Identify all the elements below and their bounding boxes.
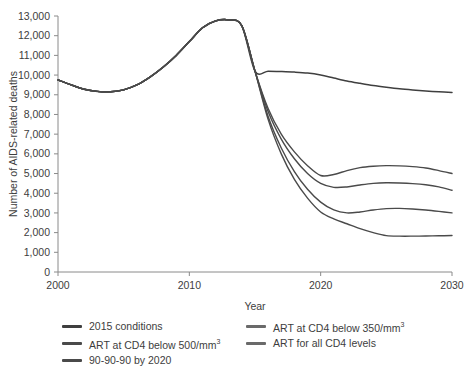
legend-swatch-icon bbox=[246, 325, 266, 327]
svg-text:2,000: 2,000 bbox=[24, 226, 50, 238]
legend-item-label: ART for all CD4 levels bbox=[273, 338, 376, 349]
legend-item[interactable]: ART at CD4 below 350/mm3 bbox=[246, 321, 436, 333]
legend-item-label: 2015 conditions bbox=[89, 321, 163, 332]
series-line bbox=[58, 20, 452, 176]
svg-text:7,000: 7,000 bbox=[24, 128, 50, 140]
y-axis-ticks: 01,0002,0003,0004,0005,0006,0007,0008,00… bbox=[18, 10, 58, 278]
legend-item-label: 90-90-90 by 2020 bbox=[89, 355, 171, 366]
legend-item[interactable]: 2015 conditions bbox=[62, 321, 240, 332]
svg-text:10,000: 10,000 bbox=[18, 69, 50, 81]
svg-text:5,000: 5,000 bbox=[24, 167, 50, 179]
series-lines bbox=[58, 20, 452, 237]
svg-text:13,000: 13,000 bbox=[18, 10, 50, 22]
svg-text:9,000: 9,000 bbox=[24, 88, 50, 100]
svg-text:2000: 2000 bbox=[46, 279, 70, 291]
legend-item[interactable]: ART at CD4 below 500/mm3 bbox=[62, 338, 240, 350]
legend-item-label: ART at CD4 below 350/mm3 bbox=[273, 321, 404, 333]
chart-legend: 2015 conditions ART at CD4 below 350/mm3… bbox=[62, 318, 462, 369]
svg-text:8,000: 8,000 bbox=[24, 108, 50, 120]
x-axis-ticks: 2000201020202030 bbox=[46, 272, 464, 291]
legend-item-label: ART at CD4 below 500/mm3 bbox=[89, 338, 220, 350]
chart-container: 01,0002,0003,0004,0005,0006,0007,0008,00… bbox=[0, 0, 468, 381]
legend-item[interactable]: 90-90-90 by 2020 bbox=[62, 355, 240, 366]
legend-swatch-icon bbox=[62, 359, 82, 361]
svg-text:11,000: 11,000 bbox=[19, 49, 50, 61]
series-line bbox=[58, 20, 452, 191]
svg-text:12,000: 12,000 bbox=[18, 29, 50, 41]
legend-swatch-icon bbox=[62, 325, 82, 327]
svg-text:2030: 2030 bbox=[440, 279, 464, 291]
svg-text:4,000: 4,000 bbox=[24, 187, 50, 199]
line-chart: 01,0002,0003,0004,0005,0006,0007,0008,00… bbox=[0, 0, 468, 318]
x-axis-title: Year bbox=[244, 300, 266, 312]
y-axis-title: Number of AIDS-related deaths bbox=[7, 71, 19, 217]
legend-swatch-icon bbox=[62, 342, 82, 344]
legend-item[interactable]: ART for all CD4 levels bbox=[246, 338, 436, 349]
svg-text:6,000: 6,000 bbox=[24, 147, 50, 159]
series-line bbox=[58, 20, 452, 93]
svg-text:1,000: 1,000 bbox=[24, 246, 50, 258]
series-line bbox=[58, 20, 452, 213]
series-line bbox=[58, 20, 452, 237]
legend-swatch-icon bbox=[246, 342, 266, 344]
svg-text:3,000: 3,000 bbox=[24, 207, 50, 219]
svg-text:2020: 2020 bbox=[309, 279, 333, 291]
svg-text:2010: 2010 bbox=[178, 279, 202, 291]
svg-text:0: 0 bbox=[44, 266, 50, 278]
